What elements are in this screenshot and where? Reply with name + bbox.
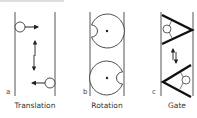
rotor-bottom-axis [106,77,108,79]
panel-letter-c: c [152,88,156,96]
mechanism-diagram: a Translation b Rotation c Gate [0,0,197,118]
carrier-top [15,22,25,32]
tether [169,20,172,26]
panel-translation: a Translation [6,12,56,110]
panel-rotation: b Rotation [83,12,124,110]
panel-gate: c Gate [152,12,193,110]
rotor-top-axis [106,30,108,32]
panel-letter-b: b [83,88,88,96]
top-bar [0,0,64,2]
caption-translation: Translation [14,101,56,110]
tether [180,83,183,89]
ligand-bottom [182,76,190,84]
ligand-top [163,25,171,33]
carrier-bottom [45,78,55,88]
panel-letter-a: a [6,88,10,96]
tether [169,32,172,38]
caption-rotation: Rotation [91,101,123,110]
caption-gate: Gate [168,101,186,110]
